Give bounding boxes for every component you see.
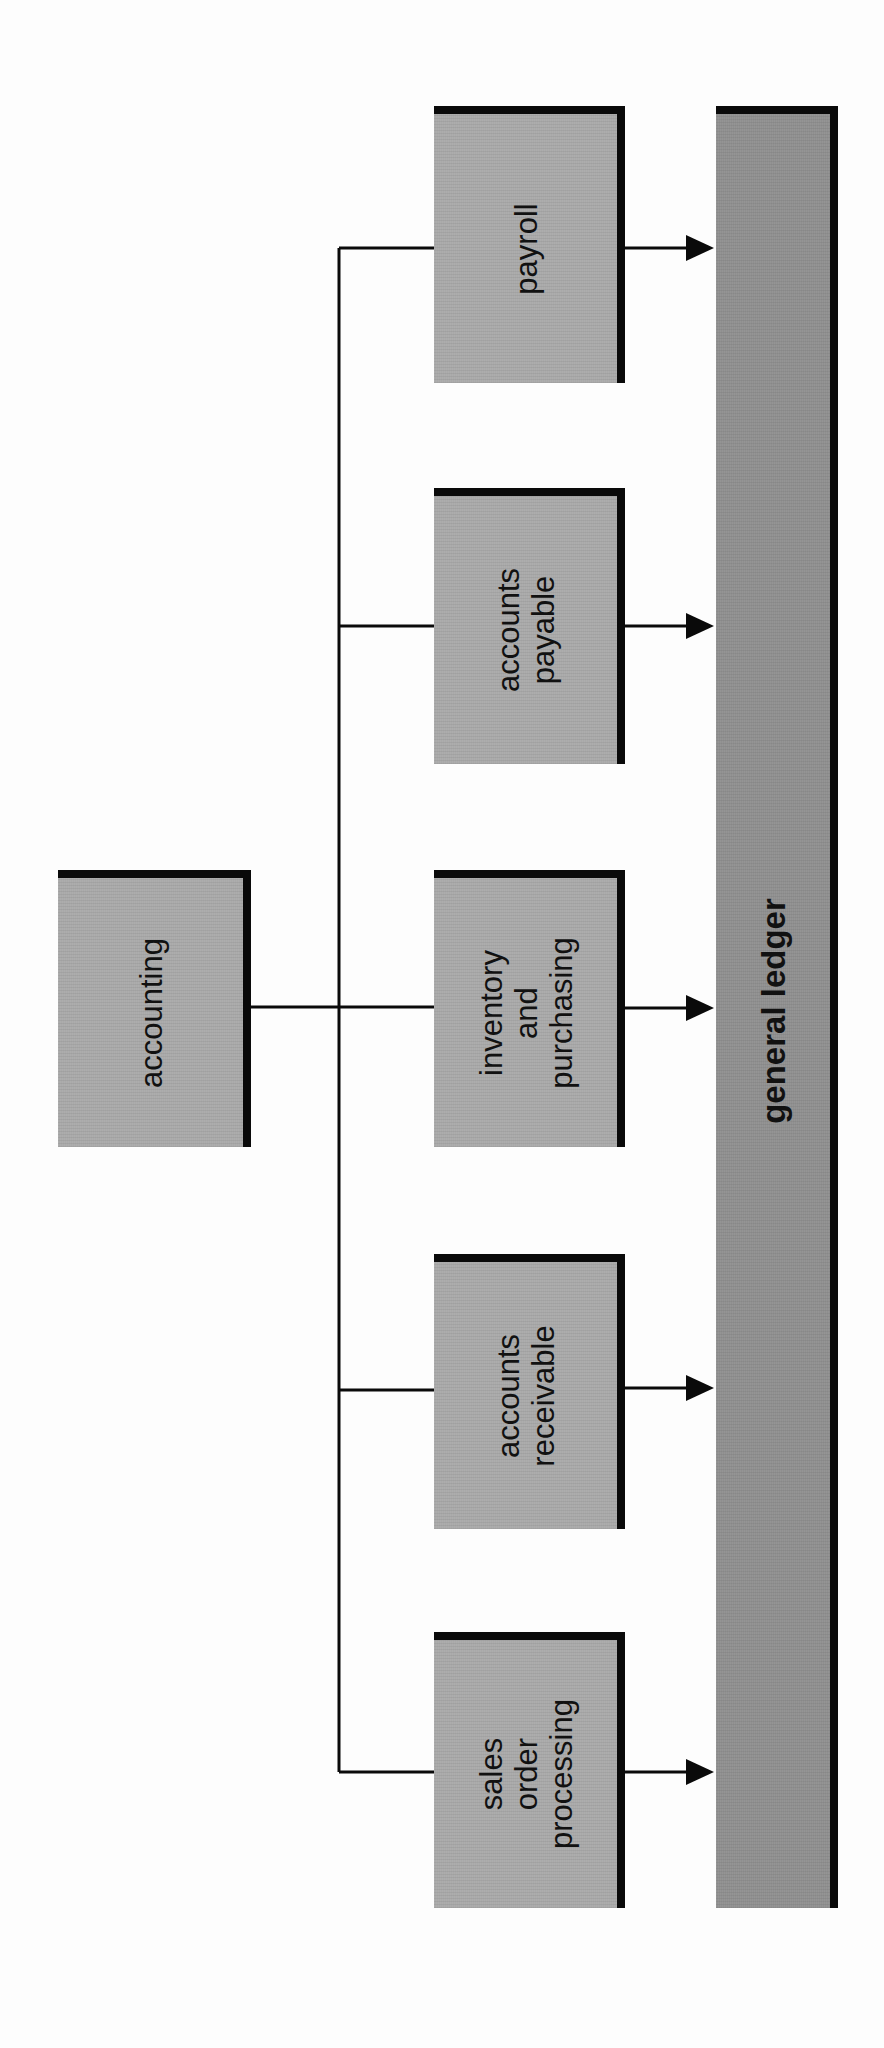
accounting-box: accounting [58,870,251,1147]
general-ledger-label: general ledger [756,898,791,1124]
accounts-payable-label: accounts payable [491,568,561,692]
arrow-sales-order-to-ledger [625,1759,714,1785]
accounting-label: accounting [133,938,168,1088]
accounts-receivable-label: accounts receivable [491,1325,561,1466]
sales-order-processing-label: sales order processing [473,1699,578,1849]
accounts-payable-box: accounts payable [434,488,625,764]
accounts-receivable-box: accounts receivable [434,1254,625,1529]
arrow-accounts-receivable-to-ledger [625,1375,714,1401]
arrow-payroll-to-ledger [625,235,714,261]
arrow-inventory-to-ledger [625,995,714,1021]
accounting-systems-diagram: accounting payroll accounts payable inve… [0,0,884,2048]
inventory-purchasing-label: inventory and purchasing [473,937,578,1089]
inventory-purchasing-box: inventory and purchasing [434,870,625,1147]
arrow-accounts-payable-to-ledger [625,613,714,639]
payroll-label: payroll [508,203,543,294]
general-ledger-box: general ledger [716,106,838,1908]
sales-order-processing-box: sales order processing [434,1632,625,1908]
payroll-box: payroll [434,106,625,383]
